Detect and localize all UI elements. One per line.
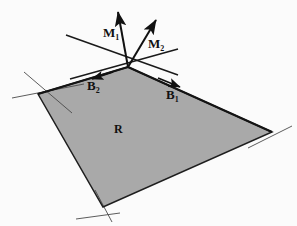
label-m2: M2 bbox=[148, 36, 164, 53]
bottom-corner-extension-line bbox=[76, 213, 120, 219]
label-b1-subscript: 1 bbox=[175, 95, 179, 104]
region-polygon bbox=[38, 67, 272, 207]
diagram-canvas: M1 M2 B2 B1 R bbox=[0, 0, 297, 226]
label-b2-subscript: 2 bbox=[96, 86, 100, 95]
label-m1: M1 bbox=[103, 25, 119, 42]
label-b2-letter: B bbox=[87, 78, 96, 93]
label-m1-letter: M bbox=[103, 25, 115, 40]
label-m1-subscript: 1 bbox=[115, 33, 119, 42]
label-m2-letter: M bbox=[148, 36, 160, 51]
label-b1-letter: B bbox=[166, 87, 175, 102]
vector-m1 bbox=[118, 12, 128, 67]
label-region-r: R bbox=[114, 122, 123, 136]
geometry-diagram: M1 M2 B2 B1 R bbox=[0, 0, 297, 226]
label-m2-subscript: 2 bbox=[160, 44, 164, 53]
